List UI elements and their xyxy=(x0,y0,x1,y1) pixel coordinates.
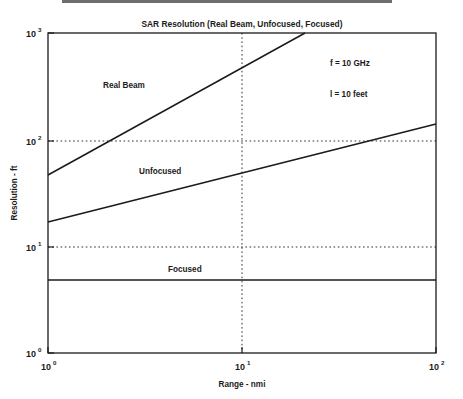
xtick-label-10-mantissa: 10 xyxy=(235,362,245,372)
ytick-label-1-mantissa: 10 xyxy=(26,349,36,359)
xtick-label-1-mantissa: 10 xyxy=(41,362,51,372)
ytick-label-10-mantissa: 10 xyxy=(26,243,36,253)
sar-resolution-chart: SAR Resolution (Real Beam, Unfocused, Fo… xyxy=(0,0,463,399)
ytick-label-100: 10 2 xyxy=(26,134,42,147)
xtick-label-100-exponent: 2 xyxy=(441,359,445,366)
xtick-label-1: 10 0 xyxy=(41,359,57,372)
ytick-label-100-exponent: 2 xyxy=(38,134,42,141)
xtick-label-100-mantissa: 10 xyxy=(429,362,439,372)
xtick-label-10: 10 1 xyxy=(235,359,251,372)
xtick-label-100: 10 2 xyxy=(429,359,445,372)
chart-page: SAR Resolution (Real Beam, Unfocused, Fo… xyxy=(0,0,463,399)
series-line-real-beam xyxy=(48,33,305,175)
curve-label-real-beam: Real Beam xyxy=(103,81,145,90)
chart-title: SAR Resolution (Real Beam, Unfocused, Fo… xyxy=(141,19,342,29)
xtick-label-1-exponent: 0 xyxy=(53,359,57,366)
ytick-label-1000-mantissa: 10 xyxy=(26,29,36,39)
curve-label-focused: Focused xyxy=(168,265,202,274)
ytick-label-1000: 10 3 xyxy=(26,26,42,39)
ytick-label-10-exponent: 1 xyxy=(38,240,42,247)
y-axis-title: Resolution - ft xyxy=(10,165,19,220)
ytick-label-1: 10 0 xyxy=(26,346,42,359)
ytick-label-1000-exponent: 3 xyxy=(38,26,42,33)
ytick-label-10: 10 1 xyxy=(26,240,42,253)
xtick-label-10-exponent: 1 xyxy=(247,359,251,366)
ytick-label-1-exponent: 0 xyxy=(38,346,42,353)
chart-svg: SAR Resolution (Real Beam, Unfocused, Fo… xyxy=(0,0,463,399)
ytick-label-100-mantissa: 10 xyxy=(26,137,36,147)
x-axis-title: Range - nmi xyxy=(219,380,266,389)
curve-label-unfocused: Unfocused xyxy=(139,167,181,176)
annotation-frequency: f = 10 GHz xyxy=(330,59,370,68)
annotation-antenna-length: l = 10 feet xyxy=(330,90,368,99)
